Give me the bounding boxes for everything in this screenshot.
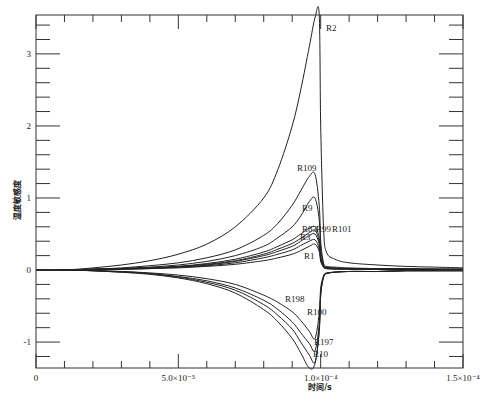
y-tick-label: 0 (27, 265, 32, 275)
curve-label-r2: R2 (326, 23, 337, 33)
curve-label-r101: R101 (332, 224, 352, 234)
curve-group (36, 7, 463, 369)
curve-label-r198: R198 (285, 294, 305, 304)
curve-label-r9: R9 (302, 203, 313, 213)
curve-r2 (36, 7, 463, 271)
curve-r10 (36, 270, 463, 369)
axis-ticks (36, 15, 463, 368)
curve-label-r100: R100 (307, 307, 327, 317)
x-tick-label: 0 (34, 373, 39, 383)
curve-label-r1: R1 (304, 251, 315, 261)
chart-canvas: 05.0×10⁻⁵1.0×10⁻⁴1.5×10⁻⁴ 3210-1 R2R109R… (0, 0, 493, 406)
curve-label-r197: R197 (314, 337, 334, 347)
curve-r109 (36, 172, 463, 270)
curve-r198 (36, 270, 463, 339)
curve-r100 (36, 270, 463, 352)
y-tick-labels: 3210-1 (24, 49, 32, 347)
curve-label-r99: R99 (316, 224, 332, 234)
y-tick-label: 3 (27, 49, 32, 59)
x-axis-title: 时间/s (308, 382, 332, 392)
plot-frame (36, 15, 463, 368)
curve-label-r3: R3 (300, 232, 311, 242)
x-tick-label: 1.5×10⁻⁴ (446, 373, 479, 383)
y-tick-label: 1 (27, 193, 32, 203)
x-tick-label: 1.0×10⁻⁴ (304, 373, 337, 383)
curve-r197 (36, 270, 463, 363)
x-tick-labels: 05.0×10⁻⁵1.0×10⁻⁴1.5×10⁻⁴ (34, 373, 480, 383)
y-axis-title: 温度敏感度 (12, 179, 22, 220)
curve-r83 (36, 226, 463, 270)
curve-r99 (36, 230, 463, 270)
y-tick-label: -1 (24, 337, 32, 347)
x-tick-label: 5.0×10⁻⁵ (162, 373, 195, 383)
curve-label-r10: R10 (313, 349, 329, 359)
y-tick-label: 2 (27, 121, 32, 131)
curve-label-r109: R109 (297, 163, 317, 173)
